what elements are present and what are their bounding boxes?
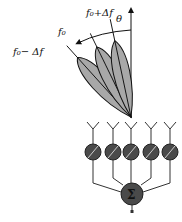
antenna-icon [87,122,99,144]
antenna-element-5 [162,122,178,160]
summer-label: Σ [127,188,135,202]
frequency-scanning-array-diagram: θ f₀+Δf f₀ f₀− Δf [0,0,182,222]
theta-label: θ [116,13,122,24]
beam-label-f0-plus-delta: f₀+Δf [85,7,115,18]
antenna-icon [164,122,176,144]
antenna-element-3 [123,122,139,160]
beam-label-f0-minus-delta: f₀− Δf [12,46,45,57]
antenna-icon [125,122,137,144]
output-port [131,210,134,213]
antenna-array [85,122,178,160]
beam-lobes [60,17,139,123]
beam-label-f0: f₀ [57,26,66,37]
antenna-icon [145,122,157,144]
theta-arc [78,30,131,43]
antenna-element-4 [143,122,159,160]
antenna-element-1 [85,122,101,160]
antenna-icon [107,122,119,144]
antenna-element-2 [105,122,121,160]
